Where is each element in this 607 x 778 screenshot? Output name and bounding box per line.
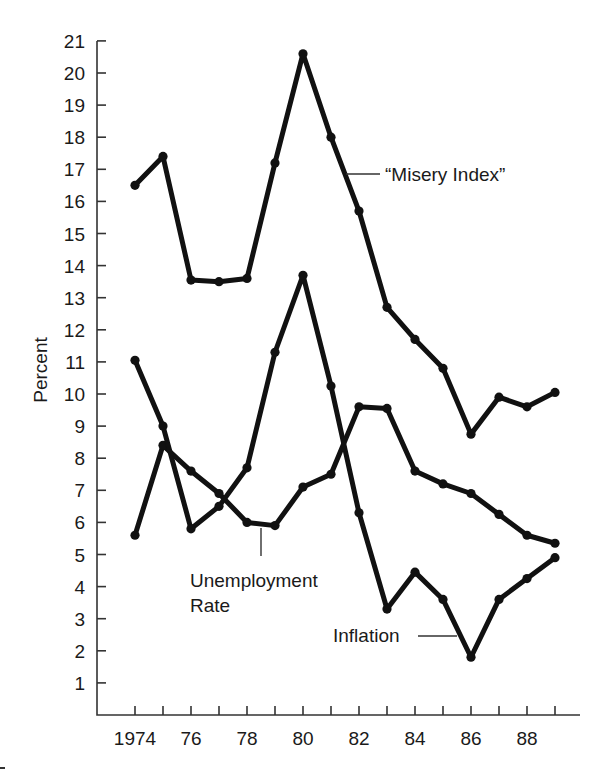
data-point	[242, 518, 251, 527]
y-tick-label: 8	[74, 448, 85, 469]
data-point	[242, 274, 251, 283]
data-point	[410, 466, 419, 475]
data-point	[214, 277, 223, 286]
y-tick-label: 3	[74, 609, 85, 630]
y-tick-label: 7	[74, 480, 85, 501]
unemployment-label-line2: Rate	[190, 595, 230, 616]
y-tick-label: 11	[65, 352, 85, 373]
data-point	[466, 430, 475, 439]
data-point	[522, 531, 531, 540]
x-tick-label: 88	[516, 728, 537, 749]
data-point	[326, 133, 335, 142]
x-tick-label: 86	[460, 728, 481, 749]
data-point	[270, 521, 279, 530]
y-tick-label: 6	[74, 512, 85, 533]
y-tick-label: 17	[64, 159, 85, 180]
data-point	[550, 388, 559, 397]
data-point	[494, 510, 503, 519]
data-point	[438, 364, 447, 373]
y-tick-label: 20	[64, 63, 85, 84]
data-point	[186, 275, 195, 284]
series-line	[135, 54, 555, 434]
data-point	[382, 604, 391, 613]
data-point	[382, 404, 391, 413]
y-tick-label: 13	[64, 288, 85, 309]
data-point	[214, 489, 223, 498]
x-tick-label: 84	[404, 728, 426, 749]
data-point	[298, 482, 307, 491]
y-tick-label: 18	[64, 127, 85, 148]
data-point	[438, 479, 447, 488]
data-point	[158, 152, 167, 161]
data-point	[130, 181, 139, 190]
misery-index-chart: 123456789101112131415161718192021 197476…	[0, 0, 607, 778]
y-tick-label: 5	[74, 545, 85, 566]
data-point	[326, 470, 335, 479]
axis-lines	[97, 41, 580, 715]
inflation-label: Inflation	[333, 625, 400, 646]
data-point	[466, 653, 475, 662]
data-point	[298, 271, 307, 280]
y-tick-label: 4	[74, 577, 85, 598]
x-tick-label: 82	[348, 728, 369, 749]
x-tick-label: 76	[180, 728, 201, 749]
data-point	[130, 356, 139, 365]
data-point	[438, 595, 447, 604]
data-point	[130, 531, 139, 540]
data-point	[214, 502, 223, 511]
data-point	[326, 381, 335, 390]
y-tick-label: 19	[64, 95, 85, 116]
data-point	[270, 348, 279, 357]
y-axis-label: Percent	[30, 337, 51, 403]
x-axis: 197476788082848688	[114, 706, 555, 749]
x-tick-label: 78	[236, 728, 257, 749]
series-misery-index	[130, 49, 559, 439]
y-tick-label: 21	[64, 31, 85, 52]
y-tick-label: 16	[64, 191, 85, 212]
y-tick-label: 12	[64, 320, 85, 341]
data-point	[550, 539, 559, 548]
data-point	[494, 393, 503, 402]
data-point	[522, 574, 531, 583]
misery-index-label: “Misery Index”	[385, 164, 505, 185]
data-point	[550, 553, 559, 562]
data-point	[354, 206, 363, 215]
data-point	[298, 49, 307, 58]
x-tick-label: 80	[292, 728, 313, 749]
data-point	[354, 402, 363, 411]
y-tick-label: 2	[74, 641, 85, 662]
unemployment-label-line1: Unemployment	[190, 570, 318, 591]
data-point	[242, 463, 251, 472]
data-point	[158, 422, 167, 431]
data-point	[494, 595, 503, 604]
data-point	[270, 158, 279, 167]
y-tick-label: 1	[74, 673, 85, 694]
data-point	[410, 335, 419, 344]
data-point	[522, 402, 531, 411]
x-tick-label: 1974	[114, 728, 157, 749]
data-point	[382, 303, 391, 312]
data-point	[410, 568, 419, 577]
y-tick-label: 9	[74, 416, 85, 437]
data-point	[186, 524, 195, 533]
y-tick-label: 15	[64, 224, 85, 245]
data-point	[466, 489, 475, 498]
data-point	[354, 508, 363, 517]
y-tick-label: 10	[64, 384, 85, 405]
data-point	[186, 466, 195, 475]
y-tick-label: 14	[64, 256, 86, 277]
